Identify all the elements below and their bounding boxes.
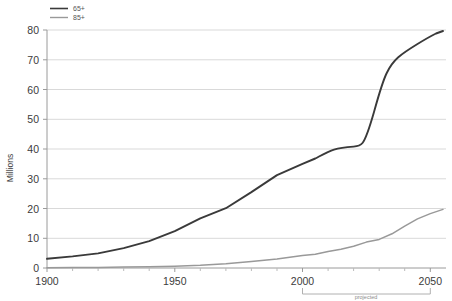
chart-legend: 65+ 85+ <box>50 5 85 21</box>
legend-label-85plus: 85+ <box>73 14 85 21</box>
x-tick-marks <box>47 268 430 272</box>
y-label-80: 80 <box>27 24 39 36</box>
y-label-40: 40 <box>27 143 39 155</box>
y-label-60: 60 <box>27 84 39 96</box>
y-axis-title: Millions <box>5 154 15 182</box>
y-label-0: 0 <box>33 262 39 274</box>
y-tick-marks <box>43 30 47 268</box>
x-label-2050: 2050 <box>419 275 443 287</box>
x-label-1950: 1950 <box>163 275 187 287</box>
y-label-50: 50 <box>27 113 39 125</box>
y-axis-labels: 80 70 60 50 40 30 20 10 0 <box>27 24 39 274</box>
line-chart: 65+ 85+ <box>0 0 452 301</box>
x-label-2000: 2000 <box>291 275 315 287</box>
y-label-30: 30 <box>27 173 39 185</box>
legend-label-65plus: 65+ <box>73 5 85 12</box>
y-label-10: 10 <box>27 232 39 244</box>
y-label-70: 70 <box>27 54 39 66</box>
grid-lines <box>47 30 446 238</box>
chart-container: 65+ 85+ <box>0 0 452 301</box>
series-line-65plus <box>47 31 443 259</box>
projected-bracket: projected <box>303 288 431 300</box>
y-label-20: 20 <box>27 203 39 215</box>
x-axis-labels: 1900 1950 2000 2050 <box>35 275 442 287</box>
x-label-1900: 1900 <box>35 275 59 287</box>
projected-label: projected <box>355 294 378 300</box>
